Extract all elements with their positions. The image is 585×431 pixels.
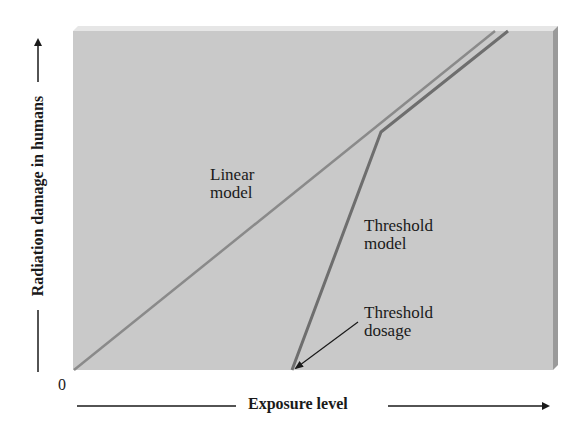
threshold-model-label: Threshold model — [364, 217, 433, 253]
threshold-model-label-line2: model — [364, 235, 433, 253]
linear-model-label-line2: model — [210, 184, 254, 202]
threshold-dosage-label: Threshold dosage — [364, 304, 433, 340]
plot-panel — [73, 26, 558, 370]
origin-label: 0 — [58, 377, 66, 394]
threshold-dosage-label-line2: dosage — [364, 322, 433, 340]
y-axis-title: Radiation damage in humans — [30, 96, 47, 297]
plot-panel-top-edge — [73, 26, 558, 31]
plot-area — [73, 31, 553, 370]
threshold-model-label-line1: Threshold — [364, 217, 433, 235]
linear-model-label-line1: Linear — [210, 166, 254, 184]
chart-canvas — [0, 0, 585, 431]
threshold-dosage-label-line1: Threshold — [364, 304, 433, 322]
x-axis-title: Exposure level — [248, 396, 348, 413]
linear-model-label: Linear model — [210, 166, 254, 202]
plot-panel-right-edge — [553, 26, 558, 370]
